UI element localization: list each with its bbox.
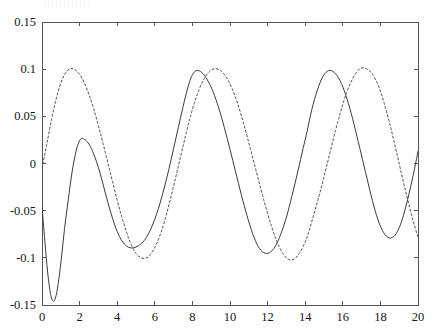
- y-tick-label: -0.05: [10, 204, 36, 217]
- y-tick-label: 0: [30, 157, 36, 170]
- series-line-response: [42, 70, 418, 301]
- x-tick-label: 0: [39, 311, 45, 324]
- x-tick-label: 2: [76, 311, 82, 324]
- figure-container: -0.15-0.1-0.0500.050.10.1502468101214161…: [0, 0, 440, 335]
- plot-frame: [42, 22, 418, 305]
- x-tick-label: 16: [337, 311, 350, 324]
- y-tick-label: -0.1: [16, 252, 36, 265]
- y-tick-label: -0.15: [10, 299, 36, 312]
- series-line-reference: [42, 68, 418, 260]
- series-layer: [42, 68, 418, 302]
- x-tick-label: 20: [412, 311, 425, 324]
- x-tick-label: 4: [114, 311, 120, 324]
- x-tick-label: 14: [299, 311, 312, 324]
- x-tick-label: 12: [261, 311, 274, 324]
- x-tick-label: 6: [152, 311, 158, 324]
- x-tick-label: 8: [189, 311, 195, 324]
- y-tick-label: 0.05: [14, 110, 36, 123]
- axis-ticks: [42, 22, 418, 305]
- x-tick-label: 10: [224, 311, 237, 324]
- y-tick-label: 0.1: [20, 63, 36, 76]
- x-tick-label: 18: [374, 311, 387, 324]
- plot-canvas: [0, 0, 440, 335]
- y-tick-label: 0.15: [14, 16, 36, 29]
